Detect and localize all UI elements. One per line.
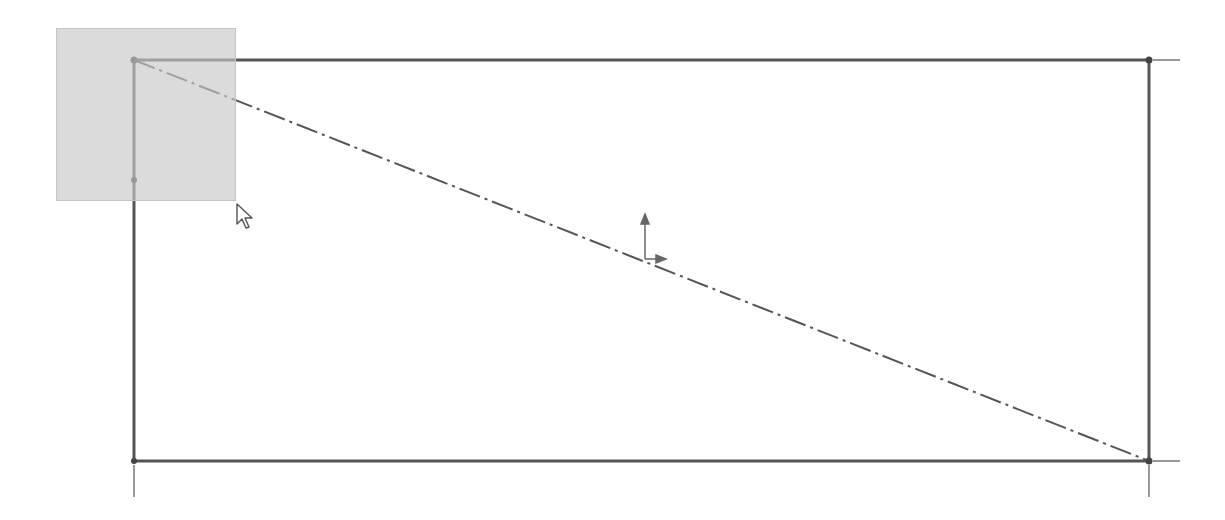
- point-bottom-left: [131, 458, 137, 464]
- origin-icon: [641, 214, 666, 263]
- point-top-right: [1146, 57, 1153, 64]
- point-bottom-right: [1146, 458, 1153, 465]
- arrow-pointer-icon: [236, 203, 260, 233]
- box-selection-rectangle: [56, 28, 236, 201]
- diagonal-centerline[interactable]: [134, 60, 1149, 461]
- extension-lines: [134, 60, 1180, 497]
